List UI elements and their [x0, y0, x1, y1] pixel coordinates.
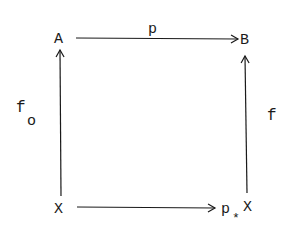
node-p-star-x-sub: *	[232, 211, 240, 226]
label-top-p: p	[148, 21, 157, 38]
node-p-star-x-base: p	[221, 201, 230, 218]
arrow-right-pX-to-b	[245, 56, 247, 193]
label-left-subscript-o: o	[27, 113, 36, 130]
arrow-bottom-x-to-pX	[77, 207, 215, 208]
node-a: A	[54, 31, 63, 48]
node-p-star-x-tail: X	[243, 199, 252, 216]
commutative-diagram: A B X p * X p f o f	[0, 0, 290, 227]
label-right-f: f	[267, 107, 277, 125]
label-left-f: f	[16, 99, 26, 117]
arrow-top-a-to-b	[76, 38, 238, 39]
node-b: B	[240, 32, 249, 49]
arrow-left-x-to-a	[60, 50, 61, 196]
node-x: X	[54, 201, 63, 218]
